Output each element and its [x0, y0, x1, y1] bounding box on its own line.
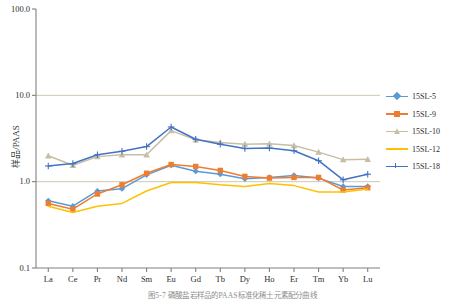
series-15SL-10 — [45, 127, 371, 168]
legend-swatch-icon — [386, 127, 408, 137]
legend-swatch-icon — [386, 162, 408, 172]
y-axis-tick-label: 1.0 — [0, 176, 30, 186]
legend-item[interactable]: 15SL-12 — [386, 141, 464, 159]
legend-item[interactable]: 15SL-9 — [386, 106, 464, 124]
x-axis-tick-label: Lu — [353, 274, 383, 284]
figure-caption: 图5-7 磷酸盐岩样品的PAAS标准化稀土元素配分曲线 — [0, 289, 465, 300]
legend-label: 15SL-9 — [412, 110, 436, 119]
legend-swatch-icon — [386, 92, 408, 102]
chart-legend: 15SL-5 15SL-9 15SL-10 15SL-12 15SL-18 — [386, 88, 464, 176]
y-axis-tick-label: 10.0 — [0, 90, 30, 100]
ree-spider-diagram-figure: 样品/PAAS 15SL-5 15SL-9 15SL-10 15SL-12 15… — [0, 0, 465, 307]
series-15SL-12 — [48, 182, 367, 212]
series-15SL-5 — [45, 162, 371, 209]
legend-swatch-icon — [386, 144, 408, 154]
legend-label: 15SL-5 — [412, 92, 436, 101]
y-axis-tick-label: 0.1 — [0, 263, 30, 273]
legend-item[interactable]: 15SL-10 — [386, 123, 464, 141]
legend-item[interactable]: 15SL-18 — [386, 158, 464, 176]
legend-label: 15SL-12 — [412, 145, 440, 154]
legend-label: 15SL-10 — [412, 127, 440, 136]
series-15SL-9 — [46, 162, 371, 212]
legend-swatch-icon — [386, 109, 408, 119]
legend-item[interactable]: 15SL-5 — [386, 88, 464, 106]
legend-label: 15SL-18 — [412, 162, 440, 171]
y-axis-tick-label: 100.0 — [0, 4, 30, 14]
